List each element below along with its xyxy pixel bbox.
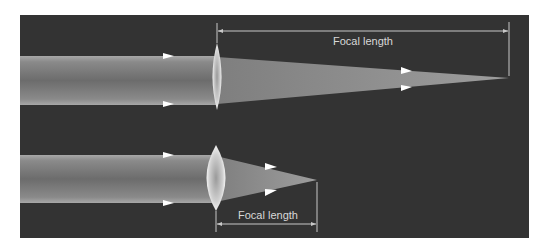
incoming-beam-top — [20, 56, 217, 105]
diagram-background — [20, 15, 529, 238]
focal-length-label-top: Focal length — [333, 35, 393, 47]
lens-focal-length-figure: Focal length Focal length — [0, 0, 544, 251]
incoming-beam-bottom — [20, 155, 216, 203]
focal-length-label-bottom: Focal length — [238, 209, 298, 221]
lens-diagram-canvas: Focal length Focal length — [0, 0, 544, 251]
